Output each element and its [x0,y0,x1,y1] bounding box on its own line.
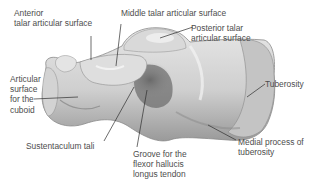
label-sustentaculum-tali: Sustentaculum tali [26,141,94,151]
anatomy-diagram: Anterior talar articular surface Middle … [0,0,318,181]
label-posterior-talar-surface: Posterior talar articular surface [191,23,251,43]
label-tuberosity: Tuberosity [265,79,304,89]
label-anterior-talar-surface: Anterior talar articular surface [14,8,92,28]
label-fhl-groove: Groove for the flexor hallucis longus te… [133,149,187,180]
label-medial-process-tuberosity: Medial process of tuberosity [238,137,304,157]
label-middle-talar-surface: Middle talar articular surface [121,8,226,18]
label-cuboid-surface: Articular surface for the cuboid [10,74,41,115]
